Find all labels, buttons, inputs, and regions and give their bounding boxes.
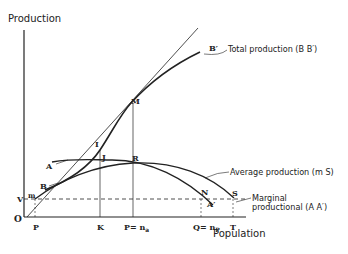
tick-K: K <box>97 222 105 232</box>
point-A: A <box>45 161 53 171</box>
total-production-curve <box>45 52 200 190</box>
marginal-production-curve <box>52 160 213 206</box>
point-V: V <box>16 194 24 204</box>
point-M: M <box>131 96 140 106</box>
tick-P-n: P= na <box>124 222 149 233</box>
point-I: I <box>95 139 99 149</box>
x-axis-label: Population <box>213 228 266 239</box>
average-production-caption: Average production (m S) <box>230 167 334 177</box>
point-J: J <box>101 152 106 162</box>
total-production-caption: Total production (B B′) <box>227 44 317 54</box>
point-R: R <box>132 153 139 163</box>
tick-T: T <box>230 222 236 232</box>
point-m: m <box>28 191 36 200</box>
point-B: B <box>40 181 47 191</box>
y-axis-label: Production <box>8 13 61 24</box>
average-caption-leader <box>205 172 229 178</box>
production-diagram: Production Population O B′ M I J R A B V… <box>0 0 348 254</box>
point-N: N <box>201 187 208 197</box>
point-B-prime: B′ <box>209 43 218 53</box>
tick-Q-n: Q= nP <box>193 222 220 233</box>
point-S: S <box>232 188 238 198</box>
marginal-production-caption-2: productional (A A′) <box>252 202 327 212</box>
origin-label: O <box>14 214 22 224</box>
point-A-prime: A′ <box>206 199 215 209</box>
tangent-ray <box>27 28 198 217</box>
tick-p: P <box>33 222 39 232</box>
